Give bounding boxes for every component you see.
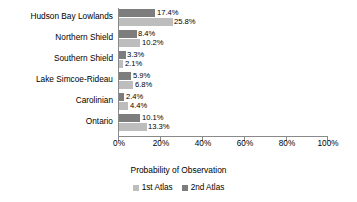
x-tick-label: 0% <box>113 139 125 149</box>
legend-swatch-icon <box>182 185 188 191</box>
plot-area: 17.4% 25.8% 8.4% 10.2% 3.3% <box>118 8 327 136</box>
bar-2nd-atlas <box>119 51 126 59</box>
bar-value-label: 17.4% <box>157 8 179 17</box>
bar-2nd-atlas <box>119 9 155 17</box>
bar-value-label: 5.9% <box>133 71 150 80</box>
category-axis-labels: Hudson Bay Lowlands Northern Shield Sout… <box>0 8 116 136</box>
x-tick-label: 100% <box>318 139 339 149</box>
bar-value-label: 8.4% <box>138 29 155 38</box>
bar-2nd-atlas <box>119 72 131 80</box>
bar-value-label: 10.1% <box>142 113 164 122</box>
bar-value-label: 2.4% <box>126 92 143 101</box>
bar-value-label: 2.1% <box>125 59 142 68</box>
legend-label: 1st Atlas <box>142 183 173 193</box>
bar-value-label: 10.2% <box>142 38 164 47</box>
bar-2nd-atlas <box>119 93 124 101</box>
bar-value-label: 13.3% <box>148 122 170 131</box>
legend-item-1st-atlas: 1st Atlas <box>133 183 173 193</box>
x-tick-label: 40% <box>195 139 211 149</box>
bar-value-label: 25.8% <box>174 17 196 26</box>
chart-legend: 1st Atlas 2nd Atlas <box>0 183 357 193</box>
x-axis-line <box>118 136 328 137</box>
legend-swatch-icon <box>133 185 139 191</box>
category-label: Ontario <box>0 117 113 126</box>
bar-2nd-atlas <box>119 30 137 38</box>
x-axis-title: Probability of Observation <box>0 165 357 176</box>
category-label: Southern Shield <box>0 54 113 63</box>
legend-label: 2nd Atlas <box>191 183 225 193</box>
x-tick-label: 20% <box>153 139 169 149</box>
category-label: Carolinian <box>0 96 113 105</box>
category-label: Hudson Bay Lowlands <box>0 12 113 21</box>
bar-value-label: 6.8% <box>135 80 152 89</box>
bar-1st-atlas <box>119 102 128 110</box>
x-tick-label: 60% <box>237 139 253 149</box>
x-axis-tick-labels: 0% 20% 40% 60% 80% 100% <box>118 139 328 151</box>
bar-1st-atlas <box>119 18 173 26</box>
bar-1st-atlas <box>119 81 133 89</box>
bar-2nd-atlas <box>119 114 140 122</box>
bar-1st-atlas <box>119 39 140 47</box>
bar-value-label: 4.4% <box>130 101 147 110</box>
bar-1st-atlas <box>119 60 123 68</box>
bar-chart: Hudson Bay Lowlands Northern Shield Sout… <box>0 0 357 202</box>
bar-value-label: 3.3% <box>127 50 144 59</box>
legend-item-2nd-atlas: 2nd Atlas <box>182 183 225 193</box>
bar-1st-atlas <box>119 123 147 131</box>
category-label: Lake Simcoe-Rideau <box>0 75 113 84</box>
x-tick-label: 80% <box>279 139 295 149</box>
category-label: Northern Shield <box>0 33 113 42</box>
